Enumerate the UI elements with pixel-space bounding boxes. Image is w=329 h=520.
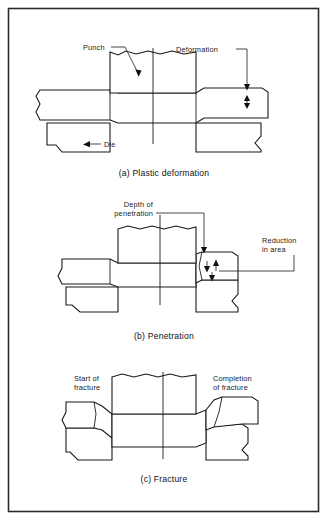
label-start-line2: fracture — [74, 383, 100, 392]
die-right-block-b — [196, 280, 238, 312]
caption-panel-a: (a) Plastic deformation — [119, 168, 210, 178]
caption-panel-c: (c) Fracture — [141, 474, 188, 484]
die-left-block-a — [47, 123, 110, 152]
label-reduction-line1: Reduction — [262, 236, 297, 245]
panel-fracture: Start of fracture Completion of fracture… — [62, 372, 258, 484]
punch-b — [118, 226, 196, 263]
label-depth-line1: Depth of — [124, 200, 154, 209]
label-start-line1: Start of — [74, 374, 100, 383]
panel-plastic-deformation: Punch Deformation Die (a) Plastic deform… — [36, 43, 268, 178]
die-left-block-b — [66, 287, 118, 312]
label-punch-text: Punch — [83, 43, 105, 52]
die-right-block-a — [196, 123, 261, 152]
label-completion-line1: Completion — [213, 374, 252, 383]
label-deformation-text: Deformation — [176, 45, 218, 54]
caption-panel-b: (b) Penetration — [134, 331, 194, 341]
label-reduction-line2: in area — [262, 245, 286, 254]
label-completion-of-fracture: Completion of fracture — [213, 374, 252, 392]
figure-root: Punch Deformation Die (a) Plastic deform… — [0, 0, 329, 520]
label-die-text: Die — [104, 140, 116, 149]
punch-c — [112, 374, 196, 414]
die-right-block-c — [206, 424, 248, 460]
label-start-of-fracture: Start of fracture — [74, 374, 100, 392]
sheet-metal-right-b — [196, 252, 238, 283]
label-completion-line2: of fracture — [213, 383, 248, 392]
label-depth-line2: penetration — [114, 209, 153, 218]
panel-penetration: Depth of penetration Reduction in area (… — [58, 200, 297, 341]
shearing-diagram-svg: Punch Deformation Die (a) Plastic deform… — [0, 0, 329, 520]
sheet-metal-slug-c — [112, 410, 206, 447]
sheet-metal-right-c — [206, 397, 258, 430]
